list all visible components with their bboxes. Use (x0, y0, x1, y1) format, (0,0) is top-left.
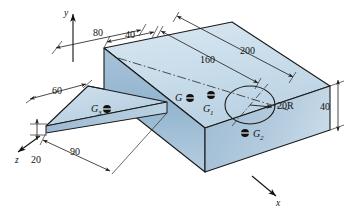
dim-20-label: 20 (31, 154, 41, 165)
dim-80-label: 80 (93, 27, 103, 38)
dim-90-label: 90 (70, 146, 80, 157)
dim-160-label: 160 (200, 54, 215, 65)
figure-canvas: 20R G G 1 G 2 G 3 (0, 0, 354, 217)
dim-200-label: 200 (240, 45, 255, 56)
dim-40-right-ext-bot (330, 125, 344, 130)
isometric-block-diagram: 20R G G 1 G 2 G 3 (0, 0, 354, 217)
dim-90-ext-right (112, 113, 167, 174)
centroid-G-label: G (175, 92, 182, 103)
dim-40-top-label: 40 (125, 29, 135, 40)
dim-60-label: 60 (52, 85, 62, 96)
centroid-G1-subscript: 1 (210, 109, 214, 117)
dim-40-right-ext-top (330, 81, 344, 86)
radius-callout-label: 20R (277, 100, 294, 111)
x-axis-line (252, 176, 276, 196)
dim-60-ext-left (26, 96, 36, 103)
centroid-G3-subscript: 3 (97, 109, 102, 117)
z-axis-label: z (14, 155, 19, 165)
centroid-G2-subscript: 2 (260, 134, 264, 142)
x-axis-label: x (275, 198, 281, 208)
dim-40-right-label: 40 (320, 101, 330, 112)
y-axis-label: y (63, 8, 69, 18)
